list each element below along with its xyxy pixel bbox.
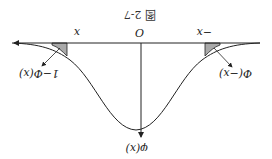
left-tail-shade	[205, 43, 220, 56]
neg-x-label: −x	[197, 27, 212, 38]
figure-caption: 图 2-7	[124, 9, 156, 20]
density-curve	[12, 43, 260, 130]
density-label: φ(x)	[126, 143, 149, 154]
normal-distribution-figure: φ(x) O −x x Φ(−x) 1−Φ(x) 图 2-7	[0, 0, 272, 159]
left-tail-label: Φ(−x)	[219, 68, 252, 79]
origin-label: O	[135, 27, 144, 38]
right-tail-pointer	[42, 48, 60, 66]
pos-x-label: x	[74, 27, 80, 38]
right-tail-label: 1−Φ(x)	[19, 68, 59, 79]
left-tail-pointer	[214, 48, 232, 67]
